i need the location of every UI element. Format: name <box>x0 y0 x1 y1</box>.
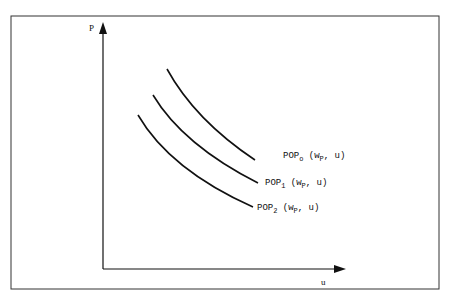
curve-label-pop-1: POP1 (wP, u) <box>265 178 327 190</box>
curve-pop-2 <box>138 115 253 207</box>
curve-label-name: POP <box>265 178 281 188</box>
curve-label-args: (w <box>303 151 319 161</box>
curve-pop-1 <box>153 95 258 183</box>
curve-label-name: POP <box>283 151 299 161</box>
curve-label-args-end: , u) <box>306 178 328 188</box>
curve-label-args-end: , u) <box>298 203 320 213</box>
y-axis-arrow-icon <box>99 22 107 34</box>
curve-pop-0 <box>167 69 255 160</box>
x-axis-label: u <box>321 277 326 287</box>
curve-label-name: POP <box>257 203 273 213</box>
curve-label-pop-0: POPo (wP, u) <box>283 151 345 163</box>
y-axis-label: P <box>89 23 94 33</box>
curve-label-args: (w <box>277 203 293 213</box>
diagram-canvas <box>0 0 450 301</box>
curve-label-args-end: , u) <box>324 151 346 161</box>
frame-border <box>11 16 439 289</box>
curve-label-args: (w <box>285 178 301 188</box>
curve-label-pop-2: POP2 (wP, u) <box>257 203 319 215</box>
x-axis-arrow-icon <box>334 265 346 273</box>
